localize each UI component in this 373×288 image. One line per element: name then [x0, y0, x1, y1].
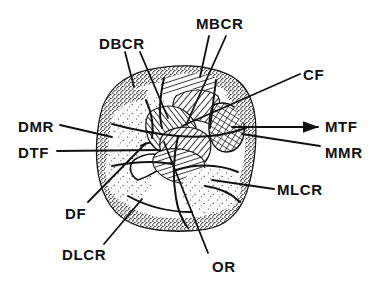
label-df: DF [65, 206, 86, 221]
label-dlcr: DLCR [62, 247, 106, 262]
tooth-diagram-figure: DBCR MBCR CF DMR MTF DTF MMR MLCR DF DLC… [0, 0, 373, 288]
label-or: OR [212, 259, 236, 274]
label-dtf: DTF [18, 145, 49, 160]
tooth-illustration [0, 0, 373, 288]
label-mbcr: MBCR [196, 16, 243, 31]
label-dmr: DMR [18, 119, 54, 134]
label-mmr: MMR [325, 145, 363, 160]
label-cf: CF [303, 67, 324, 82]
label-dbcr: DBCR [99, 36, 145, 51]
label-mtf: MTF [325, 119, 358, 134]
label-mlcr: MLCR [277, 182, 323, 197]
crown-surface-textures [97, 66, 256, 230]
leader-dtf [57, 150, 160, 151]
